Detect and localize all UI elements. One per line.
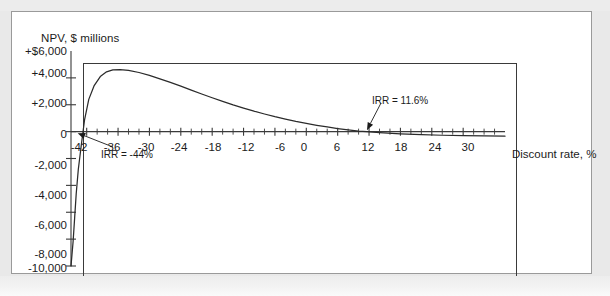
annotation-irr-positive: IRR = 11.6%	[372, 95, 428, 106]
y-axis-title: NPV, $ millions	[41, 32, 119, 44]
x-tick-label-12: 12	[351, 141, 385, 153]
y-tick-label-2000: +2,000	[5, 97, 67, 109]
y-tick-label-m8000: -8,000	[5, 248, 67, 260]
x-tick-label-m42: -42	[62, 141, 96, 153]
x-tick-label-0: 0	[287, 141, 321, 153]
x-tick-label-m12: -12	[229, 141, 263, 153]
y-tick-label-m10000: -10,000	[5, 262, 67, 274]
x-tick-label-m18: -18	[196, 141, 230, 153]
scan-margin-bottom	[0, 276, 610, 296]
x-tick-label-6: 6	[320, 141, 354, 153]
y-tick-label-4000: +4,000	[5, 67, 67, 79]
x-tick-label-30: 30	[451, 141, 485, 153]
plot-area	[83, 63, 517, 278]
y-tick-label-0: 0	[5, 128, 67, 140]
x-tick-label-18: 18	[384, 141, 418, 153]
y-tick-label-m6000: -6,000	[5, 219, 67, 231]
x-axis-title: Discount rate, %	[512, 148, 596, 160]
x-tick-label-24: 24	[418, 141, 452, 153]
y-tick-label-m4000: -4,000	[5, 189, 67, 201]
x-tick-label-m24: -24	[162, 141, 196, 153]
figure-page: NPV, $ millions +$6,000 +4,000 +2,000 0 …	[0, 0, 610, 296]
scan-margin-top	[0, 0, 610, 11]
y-tick-label-6000: +$6,000	[5, 45, 67, 57]
y-tick-label-m2000: -2,000	[5, 159, 67, 171]
annotation-irr-negative: IRR = -44%	[101, 149, 153, 160]
